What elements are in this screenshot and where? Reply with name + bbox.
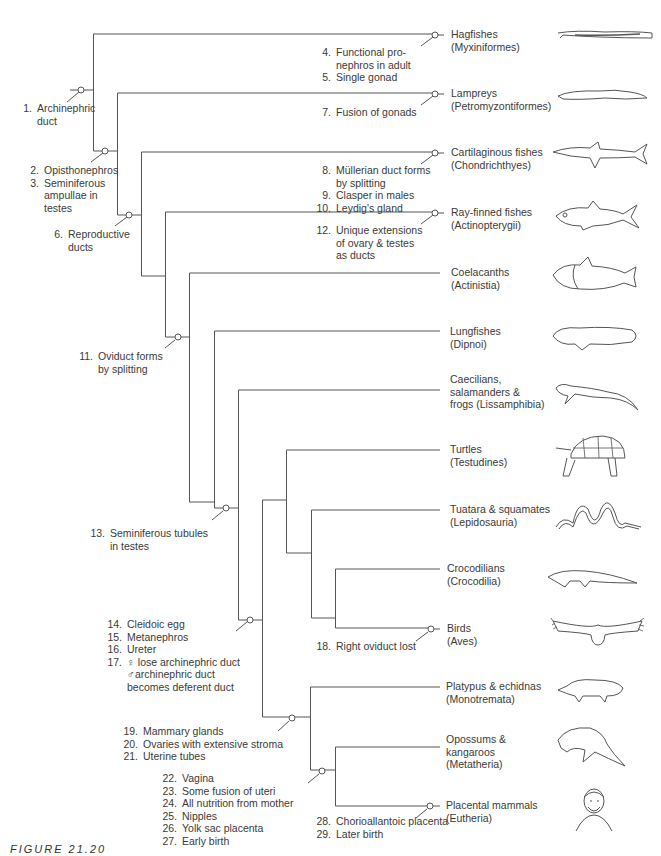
character-text: of ovary & testes — [309, 237, 422, 250]
taxon-scientific-name: (Monotremata) — [446, 693, 541, 706]
character-text: Uterine tubes — [143, 750, 205, 762]
character-number: 7. — [309, 106, 331, 119]
taxon-eutheria: Placental mammals (Eutheria) — [446, 799, 538, 824]
character-number: 10. — [309, 202, 331, 215]
taxon-common-name: Ray-finned fishes — [451, 206, 532, 219]
taxon-turtles: Turtles (Testudines) — [450, 443, 507, 468]
taxon-hagfishes: Hagfishes (Myxiniformes) — [451, 28, 520, 53]
character-text: as ducts — [309, 249, 422, 262]
character-number: 16. — [100, 643, 122, 656]
taxon-common-name: Hagfishes — [451, 28, 520, 41]
character-number: 13. — [83, 527, 105, 540]
character-7: 7.Fusion of gonads — [309, 106, 417, 119]
character-text: ampullae in — [17, 189, 118, 202]
character-text: All nutrition from mother — [182, 797, 293, 809]
character-text: ♂archinephric duct — [100, 668, 240, 681]
marker-c1 — [67, 87, 84, 102]
character-12: 12.Unique extensions of ovary & testes a… — [309, 224, 422, 262]
taxon-scientific-name: (Metatheria) — [446, 758, 506, 771]
taxon-common-name: Lampreys — [451, 87, 551, 100]
character-number: 17. — [100, 656, 122, 669]
character-number: 9. — [309, 189, 331, 202]
character-number: 12. — [309, 224, 331, 237]
taxon-scientific-name: (Actinistia) — [451, 279, 509, 292]
taxon-lepidosauria: Tuatara & squamates (Lepidosauria) — [450, 503, 550, 528]
crocodile-icon — [545, 565, 640, 590]
taxon-common-name: Opossums & — [446, 733, 506, 746]
character-11: 11.Oviduct forms by splitting — [71, 350, 163, 375]
character-number: 4. — [309, 46, 331, 59]
character-text: Some fusion of uteri — [182, 785, 275, 797]
taxon-scientific-name: (Crocodilia) — [447, 575, 505, 588]
character-text: by splitting — [309, 177, 431, 190]
character-number: 28. — [309, 815, 331, 828]
character-text: Ureter — [127, 643, 156, 655]
character-28-29: 28.Chorioallantoic placenta 29.Later bir… — [309, 815, 448, 840]
character-2-3: 2.Opisthonephros 3.Seminiferous ampullae… — [17, 164, 118, 214]
character-text: Ovaries with extensive stroma — [143, 738, 283, 750]
character-number: 20. — [116, 738, 138, 751]
salamander-icon — [553, 378, 643, 418]
taxon-scientific-name: (Testudines) — [450, 456, 507, 469]
character-number: 15. — [100, 631, 122, 644]
character-text: Unique extensions — [336, 224, 422, 236]
character-text: Metanephros — [127, 631, 188, 643]
taxon-monotremata: Platypus & echidnas (Monotremata) — [446, 680, 541, 705]
character-number: 1. — [10, 102, 32, 115]
character-number: 24. — [155, 797, 177, 810]
taxon-scientific-name: (Dipnoi) — [450, 338, 501, 351]
character-text: becomes deferent duct — [100, 681, 240, 694]
turtle-icon — [553, 432, 633, 484]
character-text: Single gonad — [336, 71, 397, 83]
taxon-common-name: Turtles — [450, 443, 507, 456]
bird-icon — [550, 615, 645, 650]
character-number: 22. — [155, 772, 177, 785]
character-number: 3. — [17, 177, 39, 190]
character-text: Seminiferous tubules — [110, 527, 208, 539]
taxon-common-name: Lungfishes — [450, 325, 501, 338]
taxon-common-name-cont: kangaroos — [446, 746, 506, 759]
taxon-lampreys: Lampreys (Petromyzontiformes) — [451, 87, 551, 112]
taxon-scientific-name: frogs (Lissamphibia) — [450, 398, 545, 411]
taxon-scientific-name: (Actinopterygii) — [451, 219, 532, 232]
character-text: Mammary glands — [143, 725, 224, 737]
character-number: 18. — [309, 640, 331, 653]
character-number: 25. — [155, 810, 177, 823]
character-number: 2. — [17, 164, 39, 177]
character-number: 23. — [155, 785, 177, 798]
taxon-common-name: Placental mammals — [446, 799, 538, 812]
character-text: Functional pro- — [336, 46, 406, 58]
taxon-birds: Birds (Aves) — [447, 622, 477, 647]
snake-icon — [553, 495, 643, 535]
taxon-scientific-name: (Chondrichthyes) — [451, 159, 543, 172]
taxon-scientific-name: (Aves) — [447, 635, 477, 648]
hagfish-icon — [555, 26, 655, 46]
character-number: 14. — [100, 618, 122, 631]
taxon-scientific-name: (Eutheria) — [446, 812, 538, 825]
character-text: ♀ lose archinephric duct — [127, 656, 240, 668]
character-text: Right oviduct lost — [336, 640, 416, 652]
character-text: ducts — [41, 241, 130, 254]
figure-caption: FIGURE 21.20 — [10, 843, 106, 855]
platypus-icon — [555, 676, 630, 704]
character-number: 29. — [309, 828, 331, 841]
character-22-27: 22.Vagina 23.Some fusion of uteri 24.All… — [155, 772, 293, 847]
taxon-lissamphibia: Caecilians, salamanders & frogs (Lissamp… — [450, 373, 545, 411]
character-text: Archinephric — [37, 102, 95, 114]
taxon-common-name: Platypus & echidnas — [446, 680, 541, 693]
character-text: Oviduct forms — [98, 350, 163, 362]
character-text: Müllerian duct forms — [336, 164, 431, 176]
character-text: testes — [17, 202, 118, 215]
taxon-common-name-cont: salamanders & — [450, 386, 545, 399]
character-1: 1.Archinephric duct — [10, 102, 95, 127]
taxon-crocodilians: Crocodilians (Crocodilia) — [447, 562, 505, 587]
ray-finned-fish-icon — [553, 200, 643, 235]
character-number: 26. — [155, 822, 177, 835]
lamprey-icon — [555, 86, 650, 106]
character-18: 18.Right oviduct lost — [309, 640, 416, 653]
coelacanth-icon — [550, 255, 640, 300]
lungfish-icon — [550, 322, 640, 352]
character-6: 6.Reproductive ducts — [41, 228, 130, 253]
taxon-common-name: Cartilaginous fishes — [451, 146, 543, 159]
character-text: by splitting — [71, 363, 163, 376]
